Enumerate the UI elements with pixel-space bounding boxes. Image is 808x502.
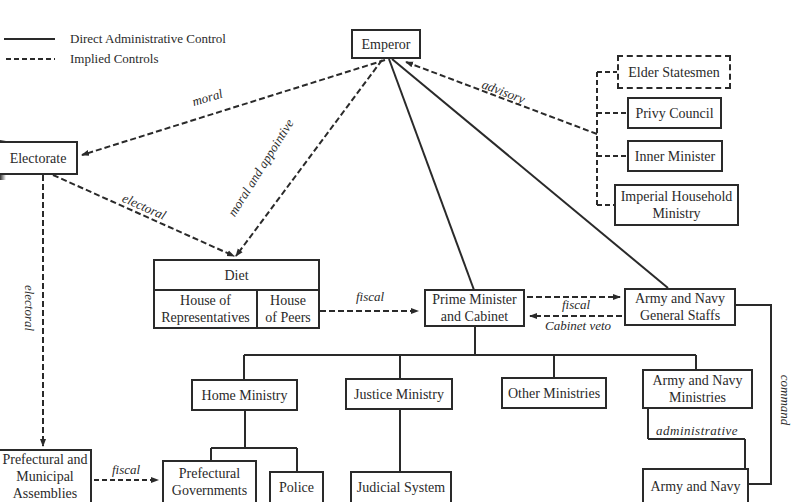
label-command: command: [777, 375, 793, 426]
node-army-and-navy[interactable]: Army and Navy: [642, 468, 749, 502]
node-privy-council[interactable]: Privy Council: [627, 97, 722, 129]
node-emperor[interactable]: Emperor: [351, 29, 421, 59]
node-other-ministries[interactable]: Other Ministries: [501, 377, 607, 409]
node-prime-minister-cabinet[interactable]: Prime Minister and Cabinet: [424, 289, 525, 327]
node-police[interactable]: Police: [269, 471, 324, 502]
node-home-ministry[interactable]: Home Ministry: [191, 379, 298, 411]
label-fiscal-assemblies: fiscal: [112, 462, 140, 478]
edge-emperor-pm: [389, 59, 474, 290]
label-fiscal-staffs: fiscal: [562, 297, 590, 313]
node-elder-statesmen[interactable]: Elder Statesmen: [617, 55, 731, 89]
node-imperial-household-ministry[interactable]: Imperial Household Ministry: [614, 184, 739, 226]
node-prefectural-governments[interactable]: Prefectural Governments: [162, 460, 257, 502]
node-diet[interactable]: Diet: [153, 259, 320, 291]
edge-moral: [82, 60, 385, 155]
node-house-of-representatives[interactable]: House of Representatives: [153, 289, 258, 329]
node-electorate[interactable]: Electorate: [0, 141, 78, 175]
edge-emperor-staffs: [392, 59, 668, 288]
node-prefectural-municipal-assemblies[interactable]: Prefectural and Municipal Assemblies: [0, 449, 92, 502]
node-general-staffs[interactable]: Army and Navy General Staffs: [624, 288, 736, 326]
legend-dashed-label: Implied Controls: [70, 51, 158, 67]
node-inner-minister[interactable]: Inner Minister: [627, 140, 723, 172]
node-judicial-system[interactable]: Judicial System: [350, 471, 452, 502]
label-administrative: administrative: [656, 423, 738, 439]
node-house-of-peers[interactable]: House of Peers: [256, 289, 320, 329]
label-electoral-vertical: electoral: [21, 285, 37, 331]
label-fiscal-diet: fiscal: [356, 289, 384, 305]
label-cabinet-veto: Cabinet veto: [545, 318, 611, 334]
node-justice-ministry[interactable]: Justice Ministry: [345, 378, 453, 410]
node-army-navy-ministries[interactable]: Army and Navy Ministries: [642, 369, 753, 409]
political-structure-diagram: Direct Administrative Control Implied Co…: [0, 0, 808, 502]
legend-solid-label: Direct Administrative Control: [70, 31, 226, 47]
